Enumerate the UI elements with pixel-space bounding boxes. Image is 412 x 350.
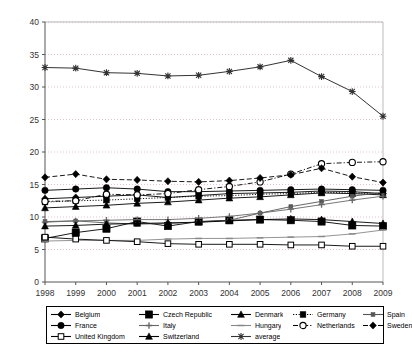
legend-swatch: [138, 332, 160, 341]
legend-item-france[interactable]: France: [50, 321, 138, 330]
data-point-marker: [134, 239, 140, 245]
legend-label: Spain: [387, 310, 405, 319]
series-line: [45, 192, 383, 202]
x-axis-tick-label: 2001: [128, 288, 147, 298]
chart-legend: BelgiumCzech RepublicDenmarkGermanySpain…: [46, 306, 384, 344]
data-point-marker: [42, 198, 48, 204]
legend-item-hungary[interactable]: Hungary: [230, 321, 292, 330]
data-point-marker: [300, 312, 306, 318]
data-point-marker: [300, 322, 306, 328]
legend-label: Czech Republic: [163, 310, 212, 319]
data-point-marker: [134, 176, 141, 183]
data-point-marker: [349, 243, 355, 249]
data-point-marker: [288, 187, 294, 193]
legend-item-spain[interactable]: Spain: [362, 310, 412, 319]
y-axis-tick-label: 5: [34, 245, 39, 255]
series-united-kingdom: [42, 234, 386, 249]
data-point-marker: [318, 201, 324, 207]
x-axis-tick-label: 1999: [66, 288, 85, 298]
x-axis-tick-label: 2005: [251, 288, 270, 298]
data-point-marker: [257, 242, 263, 248]
data-point-marker: [165, 73, 172, 80]
data-point-marker: [134, 192, 140, 198]
data-point-marker: [318, 73, 325, 80]
x-axis-tick-label: 2000: [97, 288, 116, 298]
legend-swatch: [230, 332, 252, 341]
data-point-marker: [319, 242, 325, 248]
legend-label: Sweden: [387, 321, 412, 330]
legend-label: Hungary: [255, 321, 281, 330]
data-point-marker: [380, 187, 386, 193]
data-point-marker: [42, 187, 48, 193]
y-axis-tick-label: 0: [34, 277, 39, 287]
y-axis-tick-label: 40: [30, 17, 40, 27]
legend-grid: BelgiumCzech RepublicDenmarkGermanySpain…: [50, 309, 380, 342]
legend-item-sweden[interactable]: Sweden: [362, 321, 412, 330]
data-point-marker: [42, 174, 49, 181]
data-point-marker: [349, 187, 355, 193]
legend-label: Belgium: [75, 310, 100, 319]
legend-label: France: [75, 321, 97, 330]
legend-item-germany[interactable]: Germany: [292, 310, 362, 319]
data-point-marker: [380, 113, 387, 120]
x-axis-tick-label: 2004: [220, 288, 239, 298]
legend-item-italy[interactable]: Italy: [138, 321, 230, 330]
data-point-marker: [103, 176, 110, 183]
legend-swatch: [230, 310, 252, 319]
data-point-marker: [349, 159, 355, 165]
data-point-marker: [73, 186, 79, 192]
data-point-marker: [349, 173, 356, 180]
data-point-marker: [257, 210, 263, 216]
data-point-marker: [380, 159, 386, 165]
data-point-marker: [165, 191, 171, 197]
legend-swatch: [138, 321, 160, 330]
data-point-marker: [371, 313, 375, 317]
data-point-marker: [42, 64, 49, 71]
data-point-marker: [58, 334, 64, 340]
y-axis-tick-label: 25: [30, 115, 40, 125]
y-axis-tick-label: 15: [30, 180, 40, 190]
data-point-marker: [226, 177, 233, 184]
data-point-marker: [349, 197, 355, 203]
data-point-marker: [72, 65, 79, 72]
data-point-marker: [103, 185, 109, 191]
series-line: [45, 230, 383, 241]
data-point-marker: [73, 198, 79, 204]
legend-item-belgium[interactable]: Belgium: [50, 310, 138, 319]
legend-swatch: [292, 321, 314, 330]
legend-item-denmark[interactable]: Denmark: [230, 310, 292, 319]
legend-item-switzerland[interactable]: Switzerland: [138, 332, 230, 341]
legend-swatch: [362, 321, 384, 330]
legend-item-netherlands[interactable]: Netherlands: [292, 321, 362, 330]
data-point-marker: [72, 229, 79, 236]
data-point-marker: [104, 238, 110, 244]
y-axis-tick-label: 35: [30, 50, 40, 60]
data-point-marker: [146, 322, 152, 328]
legend-item-united-kingdom[interactable]: United Kingdom: [50, 332, 138, 341]
x-axis-tick-label: 2003: [189, 288, 208, 298]
data-point-marker: [257, 63, 264, 70]
series-sweden: [42, 165, 387, 187]
data-point-marker: [58, 311, 65, 318]
legend-swatch: [50, 321, 72, 330]
x-axis-tick-label: 2006: [281, 288, 300, 298]
x-axis-tick-label: 2007: [312, 288, 331, 298]
legend-swatch: [138, 310, 160, 319]
legend-label: Germany: [317, 310, 346, 319]
legend-swatch: [50, 332, 72, 341]
data-point-marker: [288, 242, 294, 248]
legend-label: Netherlands: [317, 321, 355, 330]
legend-item-czech-republic[interactable]: Czech Republic: [138, 310, 230, 319]
series-line: [45, 168, 383, 182]
legend-label: Switzerland: [163, 332, 199, 341]
data-point-marker: [196, 242, 202, 248]
legend-item-average[interactable]: average: [230, 332, 292, 341]
series-hungary: [42, 230, 387, 241]
data-point-marker: [104, 197, 110, 203]
x-axis-tick-label: 2009: [374, 288, 393, 298]
series-average: [42, 57, 387, 120]
legend-label: Italy: [163, 321, 176, 330]
data-point-marker: [165, 241, 171, 247]
data-point-marker: [227, 242, 233, 248]
